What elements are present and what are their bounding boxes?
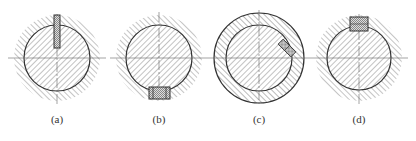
figure-a — [8, 14, 106, 104]
label-d: (d) — [339, 113, 379, 125]
key — [54, 15, 60, 48]
label-a: (a) — [37, 113, 77, 125]
key — [149, 87, 170, 99]
label-b: (b) — [139, 113, 179, 125]
figure-b — [110, 12, 208, 101]
label-c: (c) — [239, 113, 279, 125]
figure-d — [310, 14, 408, 104]
figure-c — [208, 10, 310, 106]
